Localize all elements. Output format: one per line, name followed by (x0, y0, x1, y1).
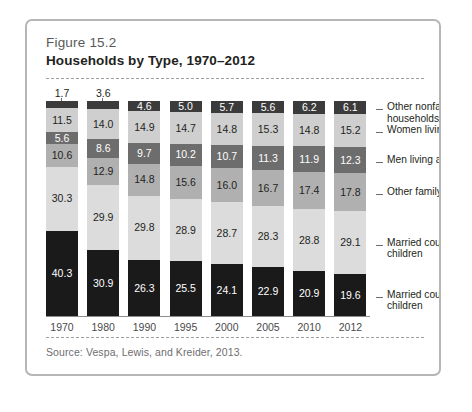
segment-value: 5.7 (219, 102, 234, 113)
segment-value: 20.9 (299, 288, 319, 299)
bar-segment: 5.6 (252, 101, 284, 113)
legend-leader-line (376, 109, 383, 110)
bar-segment: 17.8 (334, 173, 366, 211)
segment-value: 15.3 (258, 124, 278, 135)
stacked-bars: 40.330.310.65.611.51.730.929.912.98.614.… (46, 101, 366, 316)
segment-value: 14.8 (299, 125, 319, 136)
bar-segment: 14.0 (87, 109, 119, 139)
bar-segment: 10.2 (170, 144, 202, 166)
source-note: Source: Vespa, Lewis, and Kreider, 2013. (46, 346, 243, 358)
segment-value: 10.7 (217, 151, 237, 162)
figure-number: Figure 15.2 (46, 35, 117, 50)
legend-label: Married couples without children (387, 237, 441, 260)
legend-label: Married couples with children (387, 289, 441, 312)
bar-segment: 8.6 (87, 139, 119, 157)
divider-top (46, 78, 424, 79)
bar-column-1970: 40.330.310.65.611.51.7 (46, 101, 78, 316)
legend-leader-line (376, 297, 383, 298)
legend-label: Other nonfamily households (387, 101, 441, 124)
bar-segment: 15.2 (334, 114, 366, 147)
legend-leader-line (376, 245, 383, 246)
bar-segment: 20.9 (293, 271, 325, 316)
segment-value: 22.9 (258, 286, 278, 297)
bar-column-1980: 30.929.912.98.614.03.6 (87, 101, 119, 316)
segment-value: 14.8 (217, 124, 237, 135)
bar-segment: 14.8 (128, 164, 160, 196)
segment-value: 14.9 (134, 122, 154, 133)
segment-value: 17.8 (340, 187, 360, 198)
segment-value: 6.1 (343, 102, 358, 113)
bar-segment: 40.3 (46, 231, 78, 316)
bar-segment: 14.8 (211, 113, 243, 145)
bar-column-2010: 20.928.817.411.914.86.2 (293, 101, 325, 316)
segment-value: 29.1 (340, 237, 360, 248)
segment-value: 28.8 (299, 235, 319, 246)
x-axis-line (46, 316, 370, 317)
bar-segment: 19.6 (334, 274, 366, 316)
segment-value: 5.6 (261, 102, 276, 113)
segment-value: 6.2 (302, 102, 317, 113)
segment-value: 19.6 (340, 290, 360, 301)
bar-column-2012: 19.629.117.812.315.26.1 (334, 101, 366, 316)
bar-segment: 28.9 (170, 199, 202, 261)
segment-value: 25.5 (175, 283, 195, 294)
bar-segment: 28.7 (211, 202, 243, 264)
bar-segment: 6.2 (293, 101, 325, 114)
segment-value: 28.3 (258, 231, 278, 242)
legend-leader-line (376, 194, 383, 195)
segment-value: 15.6 (175, 177, 195, 188)
chart-plot-area: 40.330.310.65.611.51.730.929.912.98.614.… (46, 93, 424, 333)
segment-value: 29.9 (93, 212, 113, 223)
bar-segment: 5.7 (211, 101, 243, 113)
segment-value: 40.3 (52, 268, 72, 279)
bar-segment: 16.7 (252, 170, 284, 206)
figure-title: Households by Type, 1970–2012 (46, 53, 255, 68)
bar-segment: 11.3 (252, 146, 284, 170)
bar-segment: 29.8 (128, 196, 160, 260)
bar-segment: 26.3 (128, 260, 160, 316)
segment-value: 9.7 (137, 148, 152, 159)
legend-leader-line (376, 132, 383, 133)
segment-value: 4.6 (137, 101, 152, 111)
bar-segment: 14.9 (128, 111, 160, 143)
bar-segment: 29.1 (334, 211, 366, 274)
figure-card: Figure 15.2 Households by Type, 1970–201… (25, 19, 441, 376)
segment-value-callout: 1.7 (46, 87, 78, 99)
bar-segment: 14.7 (170, 112, 202, 144)
segment-value: 16.7 (258, 183, 278, 194)
bar-segment (87, 101, 119, 109)
bar-segment: 29.9 (87, 185, 119, 249)
bar-segment: 28.8 (293, 209, 325, 271)
bar-segment: 10.7 (211, 145, 243, 168)
segment-value: 14.0 (93, 119, 113, 130)
bar-segment: 5.6 (46, 132, 78, 144)
x-axis-label-1980: 1980 (87, 321, 119, 333)
segment-value: 14.7 (175, 123, 195, 134)
bar-segment (46, 101, 78, 108)
segment-value: 24.1 (217, 285, 237, 296)
bar-segment: 11.5 (46, 108, 78, 132)
segment-value: 15.2 (340, 125, 360, 136)
segment-value: 16.0 (217, 180, 237, 191)
bar-column-1990: 26.329.814.89.714.94.6 (128, 101, 160, 316)
legend-leader-line (376, 162, 383, 163)
segment-value: 10.6 (52, 150, 72, 161)
bar-column-2005: 22.928.316.711.315.35.6 (252, 101, 284, 316)
segment-value: 5.6 (55, 133, 70, 144)
segment-value: 30.9 (93, 278, 113, 289)
bar-segment: 15.6 (170, 166, 202, 200)
divider-bottom (46, 337, 424, 338)
bar-column-1995: 25.528.915.610.214.75.0 (170, 101, 202, 316)
bar-segment: 24.1 (211, 264, 243, 316)
segment-value: 11.9 (299, 154, 319, 165)
x-axis-label-1970: 1970 (46, 321, 78, 333)
bar-segment: 12.3 (334, 147, 366, 173)
bar-segment: 11.9 (293, 146, 325, 172)
bar-segment: 17.4 (293, 172, 325, 209)
segment-value: 5.0 (178, 101, 193, 112)
segment-value: 11.3 (258, 153, 278, 164)
segment-value: 12.9 (93, 166, 113, 177)
segment-value: 30.3 (52, 193, 72, 204)
x-axis-label-1995: 1995 (170, 321, 202, 333)
x-axis-label-2005: 2005 (252, 321, 284, 333)
